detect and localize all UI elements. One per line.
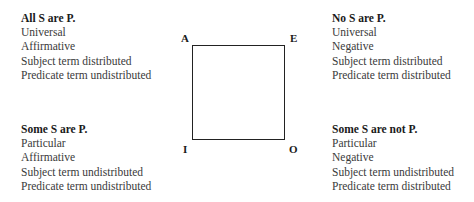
proposition-i-quantity: Particular — [21, 136, 151, 150]
proposition-o-predicate: Predicate term distributed — [332, 179, 454, 193]
proposition-a-block: All S are P. Universal Affirmative Subje… — [21, 11, 151, 82]
proposition-e-quality: Negative — [332, 39, 451, 53]
proposition-o-quality: Negative — [332, 150, 454, 164]
proposition-a-title: All S are P. — [21, 11, 151, 25]
proposition-e-subject: Subject term distributed — [332, 54, 451, 68]
corner-label-i: I — [183, 143, 187, 155]
proposition-i-title: Some S are P. — [21, 122, 151, 136]
proposition-a-quality: Affirmative — [21, 39, 151, 53]
proposition-e-predicate: Predicate term distributed — [332, 68, 451, 82]
corner-label-a: A — [181, 32, 189, 44]
proposition-o-block: Some S are not P. Particular Negative Su… — [332, 122, 454, 193]
proposition-e-title: No S are P. — [332, 11, 451, 25]
proposition-o-quantity: Particular — [332, 136, 454, 150]
corner-label-e: E — [290, 32, 297, 44]
proposition-i-predicate: Predicate term undistributed — [21, 179, 151, 193]
proposition-e-block: No S are P. Universal Negative Subject t… — [332, 11, 451, 82]
proposition-i-subject: Subject term undistributed — [21, 165, 151, 179]
proposition-a-predicate: Predicate term undistributed — [21, 68, 151, 82]
proposition-i-block: Some S are P. Particular Affirmative Sub… — [21, 122, 151, 193]
proposition-i-quality: Affirmative — [21, 150, 151, 164]
corner-label-o: O — [289, 143, 298, 155]
proposition-a-quantity: Universal — [21, 25, 151, 39]
square-of-opposition — [192, 45, 285, 140]
proposition-a-subject: Subject term distributed — [21, 54, 151, 68]
proposition-o-title: Some S are not P. — [332, 122, 454, 136]
proposition-o-subject: Subject term undistributed — [332, 165, 454, 179]
proposition-e-quantity: Universal — [332, 25, 451, 39]
